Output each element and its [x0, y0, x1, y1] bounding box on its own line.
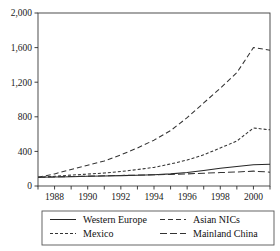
x-tick-label: 2000	[244, 192, 263, 202]
y-tick-label: 1,200	[11, 78, 33, 88]
line-chart: 04008001,2001,6002,000 19881990199219941…	[0, 0, 280, 251]
legend-label-mexico: Mexico	[83, 228, 114, 239]
y-tick-label: 400	[18, 147, 33, 157]
chart-canvas: 04008001,2001,6002,000 19881990199219941…	[0, 0, 280, 251]
y-axis-ticks: 04008001,2001,6002,000	[11, 8, 38, 191]
legend-label-asian-nics: Asian NICs	[193, 214, 240, 225]
x-tick-label: 1996	[178, 192, 197, 202]
chart-legend: Western EuropeAsian NICsMexicoMainland C…	[42, 211, 274, 245]
x-tick-label: 1994	[145, 192, 164, 202]
plot-frame	[38, 13, 270, 186]
series-line-western-europe	[38, 164, 270, 177]
series-line-mexico	[38, 128, 270, 177]
series-line-asian-nics	[38, 48, 270, 178]
x-axis-ticks: 1988199019921994199619982000	[38, 186, 270, 202]
series-lines	[38, 48, 270, 178]
legend-label-mainland-china: Mainland China	[193, 228, 258, 239]
x-tick-label: 1992	[111, 192, 130, 202]
x-tick-label: 1998	[211, 192, 230, 202]
y-tick-label: 1,600	[11, 43, 33, 53]
y-tick-label: 0	[27, 181, 32, 191]
x-tick-label: 1988	[45, 192, 64, 202]
legend-label-western-europe: Western Europe	[83, 214, 147, 225]
x-tick-label: 1990	[78, 192, 97, 202]
plot-frame-group	[38, 13, 270, 186]
y-tick-label: 800	[18, 112, 33, 122]
series-line-mainland-china	[38, 171, 270, 177]
y-tick-label: 2,000	[11, 8, 33, 18]
